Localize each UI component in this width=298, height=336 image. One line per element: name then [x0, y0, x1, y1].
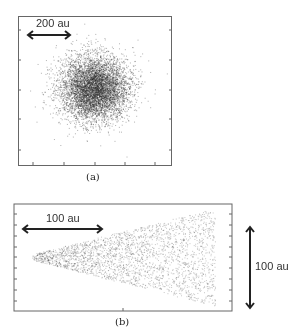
scale-label-b-horizontal: 100 au	[46, 212, 80, 224]
scale-label-a: 200 au	[36, 17, 70, 29]
scale-label-b-vertical: 100 au	[255, 260, 289, 272]
scale-arrow-a	[28, 31, 70, 39]
caption-b: (b)	[115, 316, 129, 327]
caption-a: (a)	[86, 171, 100, 182]
scale-arrow-b-horizontal	[23, 225, 102, 233]
annotation-layer	[0, 0, 298, 336]
scale-arrow-b-vertical	[246, 227, 254, 308]
